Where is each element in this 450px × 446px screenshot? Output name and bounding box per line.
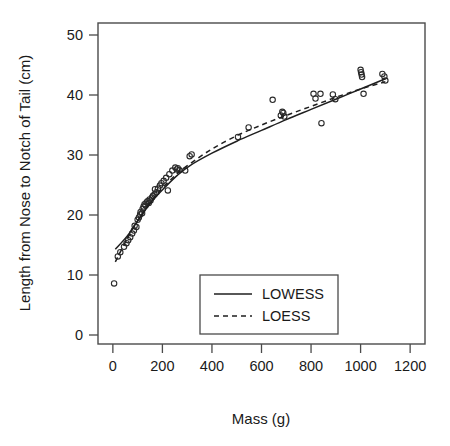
data-point (111, 281, 116, 286)
scatter-plot: 02004006008001000120001020304050 LOWESS … (0, 0, 450, 446)
x-tick-label: 400 (200, 358, 224, 374)
x-tick-label: 1200 (394, 358, 426, 374)
legend-label-loess: LOESS (262, 308, 310, 324)
data-point (167, 172, 172, 177)
data-point (313, 96, 318, 101)
data-point (165, 188, 170, 193)
data-point (319, 121, 324, 126)
y-tick-label: 40 (67, 87, 83, 103)
y-tick-label: 50 (67, 27, 83, 43)
data-point (270, 97, 275, 102)
legend-box (200, 275, 338, 334)
legend: LOWESS LOESS (200, 275, 338, 334)
x-tick-label: 800 (299, 358, 323, 374)
x-tick-label: 200 (150, 358, 174, 374)
loess-curve (115, 82, 385, 262)
x-tick-label: 1000 (344, 358, 376, 374)
y-tick-label: 20 (67, 207, 83, 223)
chart-figure: 02004006008001000120001020304050 LOWESS … (0, 0, 450, 446)
legend-label-lowess: LOWESS (262, 286, 324, 302)
x-axis-label: Mass (g) (232, 410, 290, 427)
lowess-curve (115, 79, 385, 249)
x-tick-label: 0 (109, 358, 117, 374)
data-point (246, 125, 251, 130)
y-tick-label: 0 (75, 327, 83, 343)
data-point (361, 91, 366, 96)
y-tick-label: 30 (67, 147, 83, 163)
data-point-group (111, 67, 388, 286)
data-point (318, 91, 323, 96)
y-axis-label: Length from Nose to Notch of Tail (cm) (16, 55, 33, 312)
y-tick-label: 10 (67, 267, 83, 283)
x-tick-label: 600 (249, 358, 273, 374)
